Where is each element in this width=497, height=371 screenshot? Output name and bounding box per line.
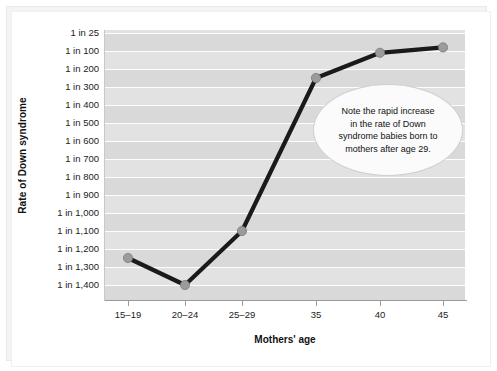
y-axis-tick-label: 1 in 1,200 — [26, 244, 99, 254]
y-axis-title: Rate of Down syndrome — [17, 71, 28, 241]
x-axis-title: Mothers' age — [105, 334, 465, 345]
y-axis-tick-label: 1 in 200 — [26, 64, 99, 74]
y-axis-tick-label: 1 in 500 — [26, 118, 99, 128]
data-point-marker — [375, 48, 384, 57]
y-axis-tick-label: 1 in 700 — [26, 154, 99, 164]
annotation-callout: Note the rapid increase in the rate of D… — [313, 84, 463, 176]
y-axis-tick-label: 1 in 1,000 — [26, 208, 99, 218]
callout-line-3: syndrome babies born to — [338, 131, 437, 141]
x-axis-line — [105, 300, 467, 301]
y-axis-tick-label: 1 in 400 — [26, 100, 99, 110]
data-point-marker — [237, 226, 246, 235]
x-axis-tick-label: 15–19 — [115, 309, 141, 320]
x-axis-tick — [185, 301, 186, 306]
y-axis-tick-label: 1 in 300 — [26, 82, 99, 92]
y-axis-tick-label: 1 in 1,300 — [26, 262, 99, 272]
callout-line-2: in the rate of Down — [350, 119, 426, 129]
x-axis-tick — [380, 301, 381, 306]
y-axis-tick-label: 1 in 600 — [26, 136, 99, 146]
x-axis-tick-label: 45 — [438, 309, 449, 320]
x-axis-tick — [128, 301, 129, 306]
x-axis-tick — [242, 301, 243, 306]
data-point-marker — [123, 253, 132, 262]
x-axis-tick-label: 25–29 — [229, 309, 255, 320]
y-axis-tick-label: 1 in 800 — [26, 172, 99, 182]
data-point-marker — [438, 43, 447, 52]
y-axis-tick-label: 1 in 1,100 — [26, 226, 99, 236]
chart-page: 1 in 251 in 1001 in 2001 in 3001 in 4001… — [0, 0, 497, 371]
y-axis-tick-label: 1 in 900 — [26, 190, 99, 200]
x-axis-tick-label: 40 — [375, 309, 386, 320]
down-syndrome-rate-line-chart: 1 in 251 in 1001 in 2001 in 3001 in 4001… — [0, 0, 497, 371]
x-axis-tick — [316, 301, 317, 306]
data-point-marker — [311, 73, 320, 82]
data-point-marker — [180, 280, 189, 289]
x-axis-tick-label: 35 — [311, 309, 322, 320]
y-axis-tick-label: 1 in 25 — [26, 28, 99, 38]
x-axis-tick-label: 20–24 — [172, 309, 198, 320]
x-axis-tick — [443, 301, 444, 306]
y-axis-tick-label: 1 in 1,400 — [26, 280, 99, 290]
y-axis-tick-label: 1 in 100 — [26, 46, 99, 56]
annotation-callout-text: Note the rapid increase in the rate of D… — [325, 105, 451, 155]
callout-line-4: mothers after age 29. — [345, 144, 431, 154]
callout-line-1: Note the rapid increase — [341, 106, 434, 116]
